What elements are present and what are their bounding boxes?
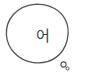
tail-circle-large xyxy=(61,62,66,67)
image-canvas: 어 xyxy=(0,0,85,80)
tail-circle-small xyxy=(66,67,69,70)
bubble-text: 어 xyxy=(0,27,85,45)
